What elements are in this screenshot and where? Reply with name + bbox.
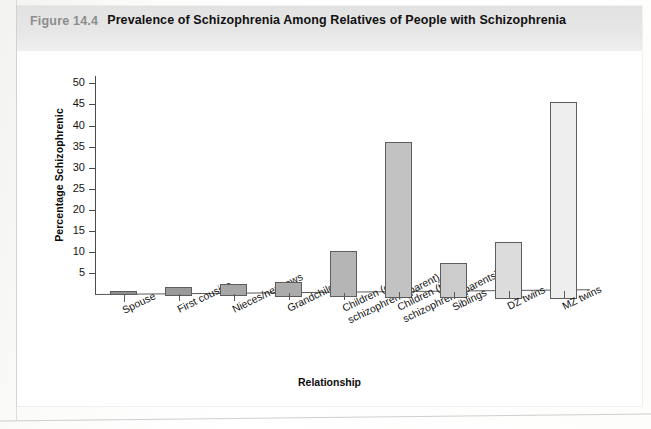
y-axis-tick: 20 [89,210,95,211]
y-axis-tick-label: 45 [73,97,85,109]
plot-region: 5101520253035404550 SpouseFirst cousinsN… [95,76,590,295]
y-axis-tick-label: 15 [73,224,85,236]
x-axis-tick [289,293,290,300]
x-axis-tick [509,291,510,298]
x-axis-tick [179,294,180,301]
scan-edge-left [16,0,17,420]
bar [385,142,412,298]
y-axis-tick-label: 25 [73,182,85,194]
y-axis-tick-label: 5 [79,266,85,278]
x-axis-tick [124,295,125,302]
y-axis-tick: 25 [89,189,95,190]
figure-title: Prevalence of Schizophrenia Among Relati… [107,13,566,28]
y-axis-tick: 30 [89,168,95,169]
chart-canvas: Percentage Schizophrenic 510152025303540… [17,51,642,406]
y-axis-tick: 45 [89,104,95,105]
y-axis-tick-label: 50 [73,76,85,88]
x-axis-tick [564,291,565,298]
scanned-page: Figure 14.4Prevalence of Schizophrenia A… [0,0,651,429]
x-axis-title: Relationship [17,376,642,388]
y-axis-tick-label: 20 [73,203,85,215]
x-axis-tick [454,292,455,299]
y-axis-tick: 40 [89,126,95,127]
y-axis-tick: 10 [89,252,95,253]
x-axis-tick [399,292,400,299]
scan-edge-bottom [0,414,651,422]
figure-header-band: Figure 14.4Prevalence of Schizophrenia A… [17,6,642,51]
y-axis-tick: 50 [89,83,95,84]
bar [550,102,577,300]
x-axis-tick [234,294,235,301]
bar [330,251,357,297]
y-axis-title: Percentage Schizophrenic [53,95,65,255]
figure-number: Figure 14.4 [30,13,98,28]
x-axis-tick [344,293,345,300]
y-axis-tick-label: 40 [73,119,85,131]
y-axis-tick-label: 30 [73,161,85,173]
y-axis-line [95,76,96,295]
y-axis-tick: 15 [89,231,95,232]
y-axis-tick: 5 [89,273,95,274]
y-axis-tick-label: 35 [73,140,85,152]
y-axis-tick: 35 [89,147,95,148]
y-axis-tick-label: 10 [73,245,85,257]
